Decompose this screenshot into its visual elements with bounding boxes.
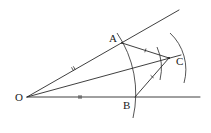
- ray-OC-bisector: [27, 55, 181, 97]
- label-B: B: [123, 99, 130, 111]
- point-A: [121, 42, 123, 44]
- label-C: C: [176, 55, 183, 67]
- label-A: A: [109, 32, 117, 44]
- segment-BC: [135, 58, 169, 97]
- point-C: [168, 57, 170, 59]
- angle-bisector-diagram: O A B C: [0, 0, 211, 133]
- arc-centre-B: [157, 47, 161, 80]
- label-O: O: [15, 91, 23, 103]
